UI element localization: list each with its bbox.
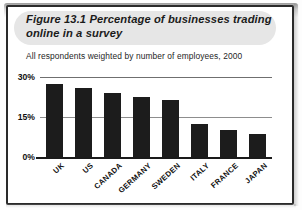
x-axis-labels: UKUSCANADAGERMANYSWEDENITALYFRANCEJAPAN [40,161,272,201]
figure-title: Figure 13.1 Percentage of businesses tra… [26,13,274,40]
bar-japan [249,134,266,157]
bar-series [40,77,272,157]
figure-container: Figure 13.1 Percentage of businesses tra… [8,7,292,203]
x-axis [36,157,272,159]
ytick-label-30: 30% [18,72,35,82]
bar-uk [46,84,63,157]
xtick-label-sweden: SWEDEN [149,161,181,191]
plot-area: 30% 15% 0% [40,77,272,157]
chart-subtitle: All respondents weighted by number of em… [26,51,242,61]
ytick-label-15: 15% [18,112,35,122]
scanned-page: Figure 13.1 Percentage of businesses tra… [0,0,302,210]
bar-canada [104,93,121,157]
bar-chart: 30% 15% 0% UKUSCANADAGERMANYSWEDENITALYF… [8,69,292,189]
bar-germany [133,97,150,157]
xtick-label-italy: ITALY [188,161,211,183]
xtick-label-us: US [80,161,94,175]
page-edge-right [294,4,299,206]
bar-sweden [162,100,179,157]
xtick-label-france: FRANCE [209,161,240,190]
page-edge-bottom [6,204,296,208]
figure-number: Figure 13.1 [26,13,86,25]
xtick-label-uk: UK [51,161,66,175]
ytick-label-0: 0% [23,152,35,162]
bar-italy [191,124,208,157]
xtick-label-japan: JAPAN [243,161,269,186]
bar-us [75,88,92,157]
bar-france [220,130,237,157]
